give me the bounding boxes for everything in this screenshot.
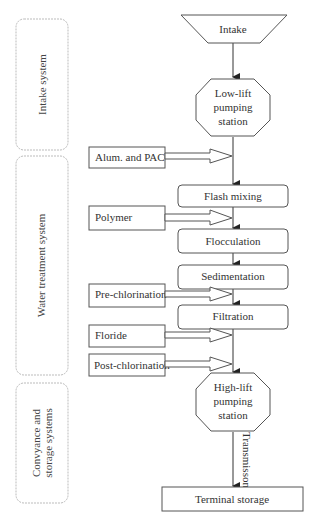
group-water-treatment-system: Water treatment system: [16, 156, 68, 375]
chemical-pre-chlorination: Pre-chlorination: [89, 284, 232, 307]
chemical-floride-label: Floride: [95, 329, 127, 341]
sedimentation-label: Sedimentation: [201, 270, 265, 282]
chemical-floride: Floride: [89, 325, 232, 347]
chemical-polymer: Polymer: [89, 206, 232, 230]
high-lift-line2: pumping: [213, 395, 253, 407]
group-conveyance-label-line2: storage systems: [42, 408, 54, 477]
terminal-storage-label: Terminal storage: [195, 493, 269, 505]
group-intake-system: Intake system: [16, 19, 68, 150]
chemical-alum-pac-label: Alum. and PAC: [95, 151, 165, 163]
hollow-arrow-icon: [165, 210, 232, 225]
low-lift-line1: Low-lift: [215, 87, 252, 99]
node-sedimentation: Sedimentation: [178, 265, 288, 289]
flocculation-label: Flocculation: [206, 235, 261, 247]
low-lift-line2: pumping: [213, 101, 253, 113]
flash-mixing-label: Flash mixing: [204, 190, 262, 202]
high-lift-line3: station: [218, 409, 248, 421]
chemical-post-chlorination-label: Post-chlorination: [94, 359, 170, 371]
low-lift-line3: station: [218, 115, 248, 127]
node-filtration: Filtration: [178, 305, 288, 329]
chemical-alum-pac: Alum. and PAC: [89, 147, 232, 168]
group-intake-system-label: Intake system: [36, 54, 48, 115]
group-water-treatment-label: Water treatment system: [35, 213, 47, 317]
chemical-pre-chlorination-label: Pre-chlorination: [95, 288, 167, 300]
node-flocculation: Flocculation: [178, 229, 288, 253]
node-terminal-storage: Terminal storage: [162, 487, 303, 511]
group-conveyance-label-line1: Convyance and: [30, 408, 42, 477]
chemical-polymer-label: Polymer: [95, 211, 133, 223]
node-low-lift-pumping-station: Low-lift pumping station: [196, 79, 270, 136]
hollow-arrow-icon: [165, 357, 232, 371]
node-flash-mixing: Flash mixing: [178, 185, 288, 207]
node-high-lift-pumping-station: High-lift pumping station: [196, 373, 270, 431]
high-lift-line1: High-lift: [214, 381, 253, 393]
node-intake-label: Intake: [219, 23, 247, 35]
group-conveyance-storage-systems: Convyance and storage systems: [16, 383, 68, 503]
water-treatment-flowchart: Intake system Water treatment system Con…: [0, 0, 317, 525]
hollow-arrow-icon: [165, 328, 232, 342]
filtration-label: Filtration: [213, 310, 254, 322]
hollow-arrow-icon: [165, 149, 232, 163]
transmission-label: Transmisson: [241, 432, 253, 488]
node-intake: Intake: [181, 15, 287, 43]
chemical-post-chlorination: Post-chlorination: [89, 354, 232, 376]
